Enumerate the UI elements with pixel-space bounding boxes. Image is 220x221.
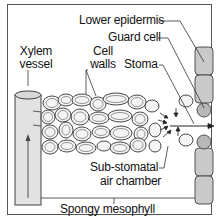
label-xylem-line2: vessel bbox=[14, 58, 58, 71]
label-stoma: Stoma bbox=[124, 58, 158, 71]
label-substomatal-line2: air chamber bbox=[100, 175, 161, 188]
label-guard-cell: Guard cell bbox=[108, 31, 161, 44]
label-cell-walls-line2: walls bbox=[86, 58, 120, 71]
xylem-vessel bbox=[15, 91, 41, 205]
stoma-adjacent-cells bbox=[179, 95, 193, 146]
label-lower-epidermis: Lower epidermis bbox=[79, 14, 164, 27]
label-spongy-mesophyll: Spongy mesophyll bbox=[60, 203, 155, 216]
label-substomatal-line1: Sub-stomatal bbox=[90, 161, 158, 174]
